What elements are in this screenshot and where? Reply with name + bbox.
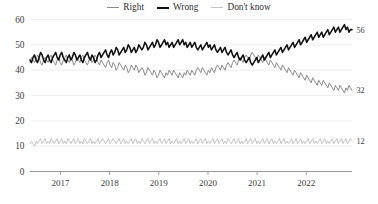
- y-axis-tick-label: 0: [20, 167, 25, 177]
- y-axis-tick-label: 20: [15, 116, 25, 126]
- x-axis-tick-label: 2019: [150, 178, 169, 188]
- data-series-lines: [30, 25, 352, 147]
- x-axis-tick-label: 2017: [51, 178, 70, 188]
- x-axis-tick-label: 2022: [297, 178, 315, 188]
- chart-svg: 0102030405060 201720182019202020212022 3…: [0, 0, 378, 204]
- y-axis-tick-label: 40: [15, 65, 25, 75]
- y-axis-tick-label: 50: [15, 40, 25, 50]
- series-end-label-right: 32: [357, 86, 365, 95]
- y-axis-tick-label: 60: [15, 15, 25, 25]
- series-end-label-wrong: 56: [357, 26, 365, 35]
- chart-container: Right Wrong Don't know 0102030405060 201…: [0, 0, 378, 204]
- x-axis-tick-label: 2021: [248, 178, 266, 188]
- y-axis-tick-label: 10: [15, 141, 25, 151]
- y-axis-tick-labels: 0102030405060: [15, 15, 25, 177]
- y-axis-tick-label: 30: [15, 91, 25, 101]
- x-axis-tick-label: 2020: [199, 178, 218, 188]
- series-end-label-dont-know: 12: [357, 137, 365, 146]
- x-axis-tick-labels: 201720182019202020212022: [51, 178, 315, 188]
- series-line-don-t-know: [30, 139, 352, 147]
- plot-area: 0102030405060 201720182019202020212022 3…: [0, 0, 378, 204]
- x-axis-tick-label: 2018: [101, 178, 120, 188]
- series-end-labels: 325612: [357, 26, 365, 146]
